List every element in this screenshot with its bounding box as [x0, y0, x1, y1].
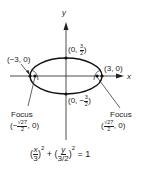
left-vertex-point: [28, 74, 31, 77]
right-vertex-point: [100, 74, 103, 77]
top-covertex-point: [64, 56, 67, 59]
right-focus-coords: (√272, 0): [101, 120, 125, 132]
left-vertex-label: (−3, 0): [7, 55, 30, 64]
top-covertex-prefix: (0,: [68, 45, 80, 54]
bottom-covertex-label: (0, −32): [68, 95, 91, 107]
right-focus-fraction: √272: [104, 120, 114, 132]
top-covertex-label: (0, 32): [68, 44, 86, 56]
left-focus-title: Focus: [11, 110, 33, 119]
ellipse-equation: (x3)2 + (y3/2)2 = 1: [30, 145, 90, 163]
x-axis-label: x: [127, 72, 131, 81]
left-focus-coords: (−√272, 0): [10, 120, 39, 132]
y-axis-label: y: [62, 8, 66, 17]
right-focus-leader: [97, 77, 120, 108]
x-axis-arrow-icon: [116, 74, 124, 79]
left-vertex-leader-arrow-icon: [26, 70, 30, 76]
equation-fraction-y: y3/2: [58, 146, 69, 163]
y-axis-arrow-icon: [64, 22, 69, 30]
top-covertex-suffix: ): [84, 45, 87, 54]
right-vertex-label: (3, 0): [104, 64, 123, 73]
left-focus-fraction: √272: [17, 120, 27, 132]
right-focus-title: Focus: [110, 110, 132, 119]
